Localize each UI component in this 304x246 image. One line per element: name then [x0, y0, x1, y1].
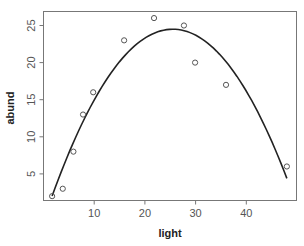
x-tick-label: 30	[189, 207, 201, 219]
data-point	[60, 186, 65, 191]
data-point	[284, 164, 289, 169]
data-point	[181, 23, 186, 28]
data-point	[122, 38, 127, 43]
fit-curve	[52, 29, 287, 196]
y-tick-label: 20	[25, 56, 37, 68]
x-tick-label: 10	[88, 207, 100, 219]
plot-frame	[44, 12, 297, 201]
y-tick-label: 10	[25, 131, 37, 143]
data-point	[151, 15, 156, 20]
scatter-plot: 10203040 510152025 light abund	[0, 0, 304, 246]
data-points	[50, 15, 290, 198]
data-point	[80, 112, 85, 117]
y-axis-label: abund	[4, 92, 16, 125]
x-tick-label: 40	[240, 207, 252, 219]
data-point	[223, 82, 228, 87]
y-tick-label: 5	[25, 171, 37, 177]
x-tick-label: 20	[139, 207, 151, 219]
x-axis-label: light	[158, 227, 182, 239]
data-point	[91, 90, 96, 95]
y-tick-label: 15	[25, 94, 37, 106]
data-point	[71, 149, 76, 154]
y-axis: 510152025	[25, 19, 44, 177]
data-point	[192, 60, 197, 65]
y-tick-label: 25	[25, 19, 37, 31]
x-axis: 10203040	[88, 201, 252, 219]
